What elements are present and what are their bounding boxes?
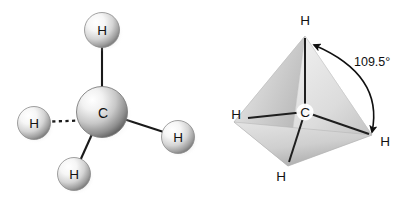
tetrahedron-solid: [234, 36, 372, 166]
tetrahedron-diagram: H H H H C 109.5°: [204, 0, 408, 201]
hydrogen-left: H: [18, 107, 51, 140]
tetra-carbon-atom: C: [296, 103, 313, 120]
carbon-atom: C: [77, 87, 128, 138]
atom-label-h-bottom: H: [69, 167, 79, 182]
atom-label-c: C: [98, 105, 108, 121]
vertex-label-h-left: H: [231, 107, 241, 122]
tetra-label-c: C: [300, 105, 310, 120]
bond-angle-label: 109.5°: [354, 55, 390, 69]
tetrahedron-panel: H H H H C 109.5°: [204, 0, 408, 201]
ball-and-stick-panel: H H H H C: [0, 0, 204, 201]
atom-label-h-top: H: [97, 23, 107, 38]
hydrogen-top: H: [85, 13, 120, 48]
hydrogen-bottom: H: [58, 158, 91, 191]
hydrogen-right: H: [162, 121, 195, 154]
atom-label-h-right: H: [173, 130, 183, 145]
methane-geometry-figure: H H H H C: [0, 0, 408, 201]
ball-and-stick-diagram: H H H H C: [0, 0, 204, 201]
vertex-label-h-right: H: [380, 134, 390, 149]
vertex-label-h-front: H: [276, 169, 286, 184]
vertex-label-h-apex: H: [300, 13, 310, 28]
atom-label-h-left: H: [29, 116, 39, 131]
